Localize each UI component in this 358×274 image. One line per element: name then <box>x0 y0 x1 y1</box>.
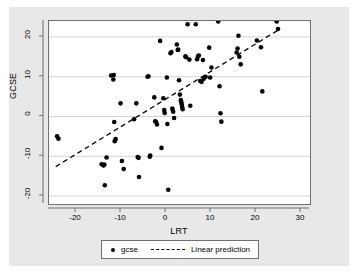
legend-marker-linear-prediction <box>151 249 185 250</box>
plot-area <box>48 20 311 205</box>
x-axis-title: LRT <box>9 226 349 236</box>
linear-prediction-line <box>56 29 280 166</box>
x-tick-label: -10 <box>108 213 132 222</box>
x-tick-label: 10 <box>198 213 222 222</box>
legend-label-gcse: gcse <box>121 245 138 254</box>
gridlines <box>49 37 310 196</box>
chart-legend: gcse Linear prediction <box>101 240 259 259</box>
figure-canvas: GCSE LRT -20-1001020-20-100102030 gcse L… <box>9 7 349 266</box>
y-tick-label: 10 <box>23 64 32 84</box>
x-tick-label: 20 <box>243 213 267 222</box>
legend-label-linear-prediction: Linear prediction <box>191 245 250 254</box>
x-tick-label: 30 <box>288 213 312 222</box>
plot-svg <box>49 21 310 204</box>
y-tick-label: -10 <box>23 144 32 164</box>
x-tick-label: -20 <box>63 213 87 222</box>
y-axis-title: GCSE <box>8 73 18 99</box>
y-tick-label: 0 <box>23 104 32 124</box>
scatter-points <box>55 21 281 192</box>
y-tick-label: -20 <box>23 184 32 204</box>
legend-marker-gcse <box>111 248 115 252</box>
y-tick-label: 20 <box>23 24 32 44</box>
x-tick-label: 0 <box>153 213 177 222</box>
